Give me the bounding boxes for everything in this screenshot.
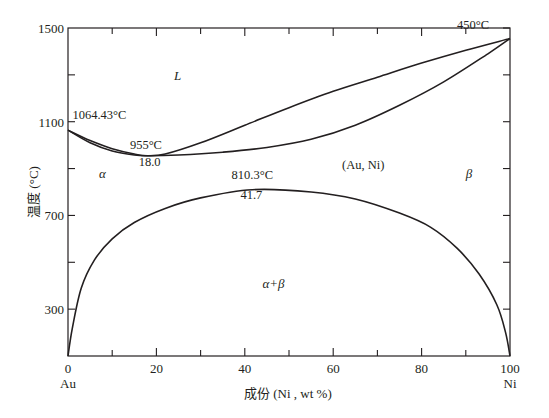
x-tick-label: 0	[65, 361, 72, 376]
phase-label: α+β	[262, 276, 285, 291]
miscibility-gap-curve	[68, 189, 510, 356]
y-tick-label: 700	[45, 208, 65, 223]
plot-frame	[68, 28, 510, 356]
phase-label: α	[99, 166, 107, 181]
phase-label: (Au, Ni)	[342, 158, 384, 172]
y-tick-label: 1100	[38, 115, 64, 130]
x-tick-label: 20	[150, 361, 163, 376]
x-axis-title: 成份 (Ni , wt %)	[244, 386, 332, 401]
x-end-label-ni: Ni	[504, 376, 517, 391]
y-tick-label: 1500	[38, 21, 64, 36]
x-tick-label: 40	[238, 361, 251, 376]
y-tick-label: 300	[45, 302, 65, 317]
annotation-label: 450°C	[457, 18, 489, 32]
annotation-label: 18.0	[139, 155, 161, 169]
annotation-label: 955°C	[130, 138, 162, 152]
axis-ticks: 020406080100AuNi30070011001500	[38, 21, 520, 391]
x-end-label-au: Au	[60, 376, 76, 391]
phase-label: β	[465, 166, 473, 181]
x-tick-label: 100	[500, 361, 520, 376]
annotation-label: 1064.43°C	[72, 108, 126, 122]
annotation-label: 810.3°C	[232, 168, 273, 182]
y-axis-title: 温度 (°C)	[26, 166, 41, 218]
annotation-label: 41.7	[240, 188, 262, 202]
x-tick-label: 80	[415, 361, 428, 376]
phase-diagram: 020406080100AuNi30070011001500 1064.43°C…	[0, 0, 549, 418]
x-tick-label: 60	[327, 361, 340, 376]
phase-label: L	[173, 68, 181, 83]
phase-boundaries	[68, 39, 510, 357]
